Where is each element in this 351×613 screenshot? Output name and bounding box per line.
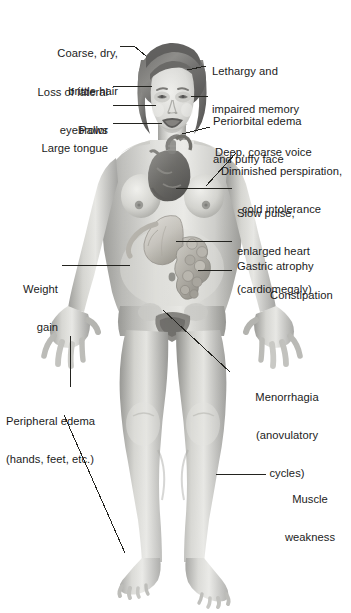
- leader-menorrhagia: [163, 310, 230, 372]
- label-constipation-line1: Constipation: [270, 289, 351, 302]
- label-muscle-line2: weakness: [271, 531, 349, 544]
- label-lethargy-line1: Lethargy and: [212, 65, 348, 78]
- leader-coarse-hair: [120, 46, 146, 56]
- leader-lethargy: [187, 66, 206, 70]
- label-constipation: Constipation: [270, 264, 351, 327]
- label-muscle-weakness: Muscle weakness: [271, 468, 349, 569]
- label-large-tongue: Large tongue: [4, 117, 108, 180]
- label-weight-gain: Weight gain: [4, 258, 58, 359]
- label-peripheral-edema-line2: (hands, feet, etc.): [6, 453, 122, 466]
- illustration-canvas: Coarse, dry, brittle hair Loss of latera…: [0, 0, 351, 613]
- label-peripheral-edema: Peripheral edema (hands, feet, etc.): [6, 390, 122, 491]
- label-pulse-line1: Slow pulse,: [237, 207, 351, 220]
- label-coarse-hair-line1: Coarse, dry,: [10, 47, 118, 60]
- label-eyebrows-line1: Loss of lateral: [4, 86, 108, 99]
- label-muscle-line1: Muscle: [271, 493, 349, 506]
- label-weight-line2: gain: [4, 321, 58, 334]
- label-menorrhagia-line2: (anovulatory: [232, 429, 342, 442]
- label-weight-line1: Weight: [4, 283, 58, 296]
- leader-periorbital: [191, 96, 208, 97]
- label-peripheral-edema-line1: Peripheral edema: [6, 415, 122, 428]
- label-perspiration-line1: Diminished perspiration,: [212, 165, 351, 178]
- leader-voice: [182, 127, 210, 134]
- label-menorrhagia-line1: Menorrhagia: [232, 391, 342, 404]
- label-tongue-line1: Large tongue: [4, 142, 108, 155]
